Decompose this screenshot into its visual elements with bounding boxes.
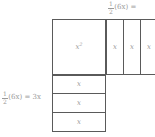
top-fraction: 1 2	[108, 1, 114, 15]
top-fraction-denominator: 2	[108, 9, 114, 15]
tile-x-bottom-3-label: x	[77, 119, 81, 126]
tile-x-right-3: x	[140, 19, 155, 75]
tile-x-bottom-1: x	[52, 75, 106, 94]
tile-x-right-1: x	[106, 19, 124, 75]
left-fraction: 1 2	[2, 91, 8, 105]
left-coefficient-label: 1 2 (6x) = 3x	[2, 91, 41, 105]
area-model-figure: 1 2 (6x) = 1 2 (6x) = 3x x2 x x x x x x	[0, 0, 155, 137]
tile-x-right-2: x	[123, 19, 141, 75]
tile-x-squared-label: x2	[76, 44, 83, 51]
tile-x-bottom-2-label: x	[77, 100, 81, 107]
tile-x-right-3-label: x	[147, 44, 151, 51]
tile-x-bottom-1-label: x	[77, 81, 81, 88]
tile-x-squared: x2	[52, 19, 106, 75]
tile-x-bottom-3: x	[52, 112, 106, 132]
tile-x-right-2-label: x	[130, 44, 134, 51]
tile-x-bottom-2: x	[52, 93, 106, 113]
top-coefficient-label: 1 2 (6x) =	[108, 1, 136, 15]
tile-x-right-1-label: x	[113, 44, 117, 51]
left-fraction-denominator: 2	[2, 99, 8, 105]
top-fraction-numerator: 1	[108, 1, 114, 7]
left-expression: (6x) = 3x	[8, 94, 41, 101]
tile-x-squared-exponent: 2	[80, 41, 83, 46]
left-fraction-numerator: 1	[2, 91, 8, 97]
top-expression: (6x) =	[114, 4, 136, 11]
